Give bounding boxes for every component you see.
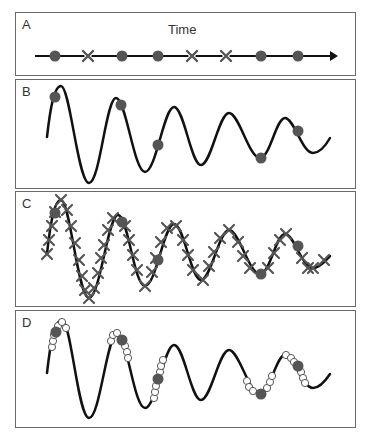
sample-dot-icon (153, 51, 164, 62)
damped-wave-b (47, 86, 330, 183)
sample-dot-icon (50, 51, 61, 62)
sample-dot-icon (117, 51, 128, 62)
diagram-canvas (0, 0, 367, 432)
sample-dot-icon (293, 51, 304, 62)
damped-wave-d (47, 320, 330, 418)
burst-samples-d (48, 318, 308, 401)
arrow-head-icon (330, 51, 338, 61)
sample-dot-icon (256, 51, 267, 62)
